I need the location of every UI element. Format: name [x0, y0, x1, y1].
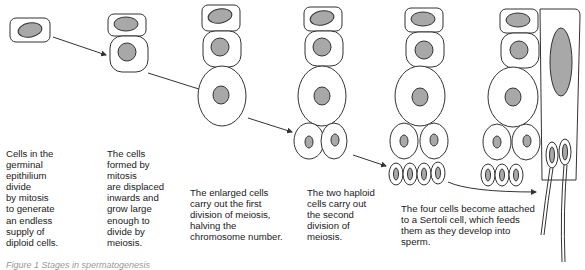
stage-2-label: The cells formed by mitosis are displace… — [107, 148, 164, 248]
stage-1-label: Cells in the germinal epithilium divide … — [6, 148, 58, 248]
arrow-4 — [353, 155, 386, 166]
stage-2-column — [108, 14, 148, 72]
figure-caption: Figure 1 Stages in spermatogenesis — [6, 260, 150, 270]
stage-4-column — [294, 7, 347, 159]
stage-3-label: The enlarged cells carry out the first d… — [190, 187, 283, 242]
arrow-3 — [248, 118, 292, 132]
arrow-1 — [53, 37, 106, 55]
stage-3-column — [198, 5, 246, 126]
stage-4-label: The two haploid cells carry out the seco… — [307, 187, 375, 242]
stage-1-cell — [10, 18, 50, 42]
stage-5-column — [389, 8, 448, 185]
stage-5-label: The four cells become attached to a Sert… — [401, 203, 535, 247]
